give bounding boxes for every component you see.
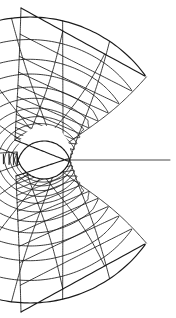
radial-line xyxy=(11,18,52,142)
radial-line xyxy=(70,41,110,159)
radial-line xyxy=(16,176,21,312)
mesh-canvas xyxy=(0,0,176,318)
radial-line xyxy=(70,160,110,278)
mesh-figure: C-type structured grid around a blunt bo… xyxy=(0,0,176,318)
